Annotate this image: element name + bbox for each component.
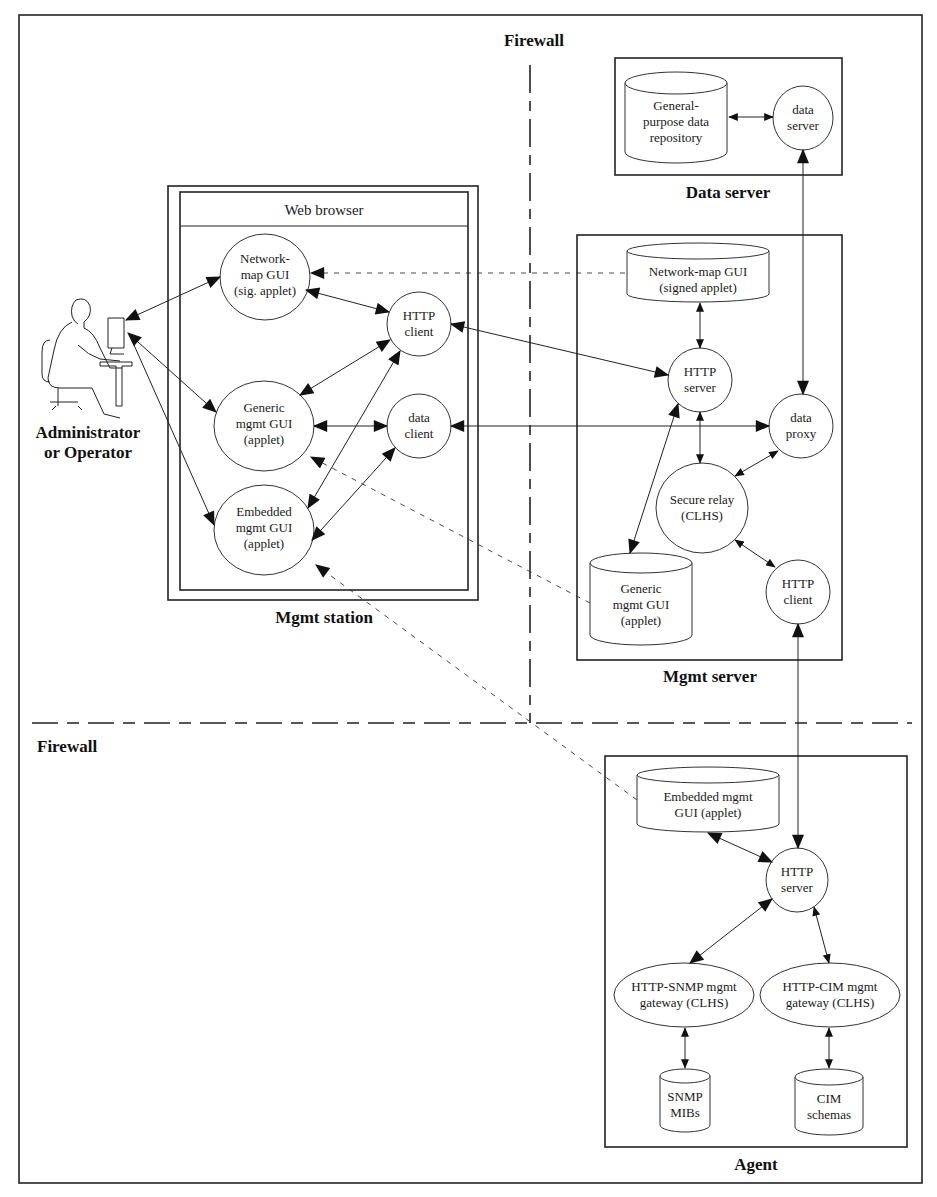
dashed-applet-download-lines (311, 273, 637, 800)
secure-relay-node[interactable]: Secure relay (CLHS) (656, 463, 748, 553)
svg-text:Embedded mgmt: Embedded mgmt (663, 789, 753, 804)
cim-schemas-cylinder[interactable]: CIM schemas (795, 1069, 863, 1135)
svg-text:(applet): (applet) (244, 536, 284, 551)
arrow-operator-embedded (134, 345, 214, 525)
svg-text:(CLHS): (CLHS) (681, 508, 723, 523)
svg-text:(applet): (applet) (244, 432, 284, 447)
svg-text:CIM: CIM (817, 1091, 842, 1106)
generic-gui-store-cylinder[interactable]: Generic mgmt GUI (applet) (590, 553, 692, 645)
arrow-embeddedstore-agenthttpserver (708, 833, 772, 862)
mgmt-http-client-node[interactable]: HTTP client (766, 560, 830, 624)
svg-text:HTTP-SNMP mgmt: HTTP-SNMP mgmt (631, 979, 737, 994)
svg-text:server: server (684, 380, 716, 395)
agent-label: Agent (734, 1155, 778, 1174)
svg-text:server: server (787, 118, 819, 133)
arrow-securerelay-httpclient (735, 540, 775, 567)
data-server-node[interactable]: data server (773, 86, 833, 150)
actor-label-line1: Administrator (36, 423, 141, 442)
svg-text:data: data (790, 410, 812, 425)
station-data-client-node[interactable]: data client (387, 394, 451, 458)
mgmt-http-server-node[interactable]: HTTP server (668, 348, 732, 412)
svg-text:MIBs: MIBs (670, 1105, 700, 1120)
operator-person-icon (42, 299, 132, 418)
svg-text:Embedded: Embedded (236, 504, 292, 519)
web-browser-title: Web browser (284, 202, 363, 218)
architecture-diagram: Firewall Firewall Administrator or Opera… (0, 0, 937, 1197)
station-embedded-gui-node[interactable]: Embedded mgmt GUI (applet) (214, 485, 314, 575)
svg-text:client: client (784, 592, 813, 607)
arrow-operator-networkmap (126, 277, 220, 320)
svg-text:(sig. applet): (sig. applet) (234, 283, 296, 298)
horizontal-firewall-label: Firewall (37, 737, 97, 756)
svg-text:HTTP: HTTP (782, 576, 815, 591)
svg-text:(applet): (applet) (621, 613, 661, 628)
svg-text:HTTP: HTTP (403, 308, 436, 323)
svg-text:map GUI: map GUI (241, 267, 290, 282)
svg-text:schemas: schemas (807, 1107, 851, 1122)
snmp-mibs-cylinder[interactable]: SNMP MIBs (660, 1069, 710, 1132)
svg-text:client: client (405, 324, 434, 339)
svg-text:HTTP: HTTP (781, 864, 814, 879)
network-map-gui-node[interactable]: Network- map GUI (sig. applet) (220, 234, 310, 320)
arrow-dataproxy-securerelay (735, 451, 778, 476)
svg-text:client: client (405, 426, 434, 441)
svg-text:Secure relay: Secure relay (670, 492, 735, 507)
http-cim-gateway-node[interactable]: HTTP-CIM mgmt gateway (CLHS) (760, 963, 900, 1027)
svg-text:SNMP: SNMP (667, 1089, 702, 1104)
svg-text:mgmt GUI: mgmt GUI (236, 520, 293, 535)
dashed-generic-download (311, 457, 590, 603)
arrow-agenthttpserver-snmpgateway (690, 899, 772, 963)
svg-text:Network-: Network- (240, 251, 290, 266)
svg-text:Generic: Generic (243, 400, 284, 415)
vertical-firewall-label: Firewall (504, 31, 564, 50)
arrow-agenthttpserver-cimgateway (814, 907, 829, 963)
svg-text:HTTP: HTTP (684, 364, 717, 379)
svg-text:proxy: proxy (786, 426, 817, 441)
data-proxy-node[interactable]: data proxy (769, 394, 833, 458)
arrow-embedded-httpclient (308, 351, 400, 508)
svg-text:GUI (applet): GUI (applet) (675, 805, 742, 820)
network-map-gui-store-cylinder[interactable]: Network-map GUI (signed applet) (627, 243, 769, 302)
actor-label-line2: or Operator (44, 443, 132, 462)
arrow-httpclient-httpserver (451, 324, 668, 375)
http-snmp-gateway-node[interactable]: HTTP-SNMP mgmt gateway (CLHS) (614, 963, 754, 1027)
arrow-generic-httpclient (300, 340, 390, 395)
svg-text:data: data (408, 410, 430, 425)
station-http-client-node[interactable]: HTTP client (387, 292, 451, 356)
mgmt-server-label: Mgmt server (663, 667, 757, 686)
station-generic-gui-node[interactable]: Generic mgmt GUI (applet) (214, 381, 314, 471)
svg-text:gateway (CLHS): gateway (CLHS) (786, 995, 874, 1010)
svg-text:repository: repository (650, 130, 703, 145)
data-server-label: Data server (686, 183, 771, 202)
svg-text:purpose data: purpose data (643, 114, 709, 129)
svg-text:mgmt GUI: mgmt GUI (236, 416, 293, 431)
agent-http-server-node[interactable]: HTTP server (766, 848, 828, 912)
svg-text:HTTP-CIM mgmt: HTTP-CIM mgmt (783, 979, 878, 994)
arrow-networkmap-httpclient (306, 290, 389, 312)
embedded-gui-store-cylinder[interactable]: Embedded mgmt GUI (applet) (637, 767, 779, 832)
svg-text:(signed applet): (signed applet) (659, 280, 737, 295)
svg-text:gateway (CLHS): gateway (CLHS) (640, 995, 728, 1010)
general-purpose-repository-cylinder[interactable]: General- purpose data repository (625, 72, 727, 163)
svg-text:mgmt GUI: mgmt GUI (613, 597, 670, 612)
svg-text:data: data (792, 102, 814, 117)
svg-text:Network-map GUI: Network-map GUI (649, 264, 748, 279)
svg-text:General-: General- (653, 98, 698, 113)
mgmt-station-label: Mgmt station (275, 608, 373, 627)
svg-text:Generic: Generic (620, 581, 661, 596)
svg-text:server: server (781, 880, 813, 895)
arrow-operator-generic (128, 333, 216, 412)
